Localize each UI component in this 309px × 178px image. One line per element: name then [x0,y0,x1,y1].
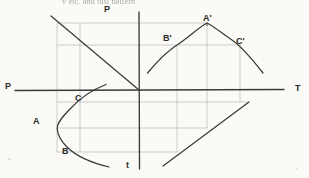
label-B-prime: B' [163,34,172,43]
label-t-bottom: t [126,161,129,170]
scan-speck [8,158,11,160]
diagonal-lines [51,16,249,166]
label-B: B [62,147,69,156]
horizontal-axis-PT [15,90,284,91]
label-P-left: P [5,82,11,91]
label-P-top: P [104,5,110,14]
label-C: C [75,94,82,103]
right-parabola-ABC-prime [148,23,264,73]
label-A-prime: A' [203,14,212,23]
label-T-right: T [295,84,301,93]
diagonal-upper-left [51,16,139,90]
construction-grid [57,23,249,152]
label-C-prime: C' [236,37,245,46]
label-A: A [33,117,40,126]
scan-speck [296,168,298,170]
diagonal-lower-right [163,102,249,166]
geometry-diagram [0,0,309,178]
